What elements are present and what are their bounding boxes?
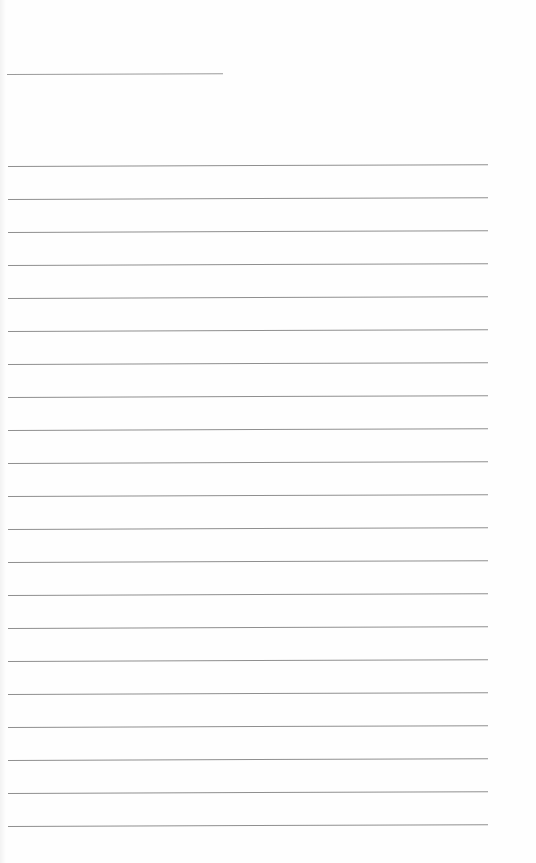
ruled-line[interactable] xyxy=(8,692,488,695)
ruled-line[interactable] xyxy=(8,593,488,596)
ruled-line[interactable] xyxy=(8,494,488,497)
ruled-line[interactable] xyxy=(8,296,488,299)
ruled-line[interactable] xyxy=(8,791,488,794)
ruled-line[interactable] xyxy=(8,461,488,464)
ruled-line[interactable] xyxy=(8,362,488,365)
name-line[interactable] xyxy=(7,73,223,75)
ruled-line[interactable] xyxy=(8,659,488,662)
ruled-line[interactable] xyxy=(8,527,488,530)
ruled-line[interactable] xyxy=(8,197,488,200)
ruled-line[interactable] xyxy=(8,395,488,398)
ruled-line[interactable] xyxy=(8,230,488,233)
ruled-line[interactable] xyxy=(8,560,488,563)
ruled-line[interactable] xyxy=(8,329,488,332)
ruled-line[interactable] xyxy=(8,263,488,266)
page-edge-shadow xyxy=(0,0,6,863)
ruled-line[interactable] xyxy=(8,725,488,728)
ruled-line[interactable] xyxy=(8,164,488,167)
ruled-line[interactable] xyxy=(8,758,488,761)
ruled-line[interactable] xyxy=(8,626,488,629)
ruled-line[interactable] xyxy=(8,824,488,827)
ruled-line[interactable] xyxy=(8,428,488,431)
